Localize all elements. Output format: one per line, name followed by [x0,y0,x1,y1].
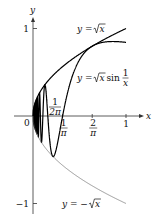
x-axis-arrow-icon [139,114,144,118]
x-tick-label: 1 [123,119,129,129]
label-neg-sqrt-eq: = − [67,199,88,209]
label-neg-sqrt-radicand: x [95,199,100,209]
label-sqrt-eq: = [82,24,92,34]
label-sqrt: y = x [76,24,106,34]
label-neg-sqrt-prefix: y = − [61,199,88,209]
y-axis-label: y [29,5,36,15]
series-line-1 [33,42,126,157]
x-tick-label-num: 2 [90,118,96,128]
label-neg-sqrt: y = −x [61,199,101,209]
origin-label: 0 [24,118,30,128]
label-sqrt-radicand: x [100,24,105,34]
x-axis-label: x [146,111,151,121]
annotation-num: 1 [52,97,58,107]
label-sqrt-prefix: y = [76,24,93,34]
label-product-radicand: x [100,73,105,83]
label-product-frac-den: x [123,78,128,88]
y-tick-label: −1 [16,199,29,209]
label-product-eq: = [82,73,92,83]
annotation-den: 2π [48,107,62,117]
x-tick-label-den: π [60,128,68,138]
y-axis-arrow-icon [31,17,35,22]
x-tick-label-den: π [89,128,97,138]
x-tick-label-num: 1 [61,118,67,128]
series-line-2 [33,116,126,204]
chart: xy01π2π11−1y = xy = xsin1xy = −x12π [0,0,156,221]
y-tick-label: 1 [23,24,29,34]
label-product: y = x [76,73,106,83]
label-product-frac-num: 1 [123,68,129,78]
label-product-sin: sin [107,73,120,83]
label-product-prefix: y = [76,73,93,83]
